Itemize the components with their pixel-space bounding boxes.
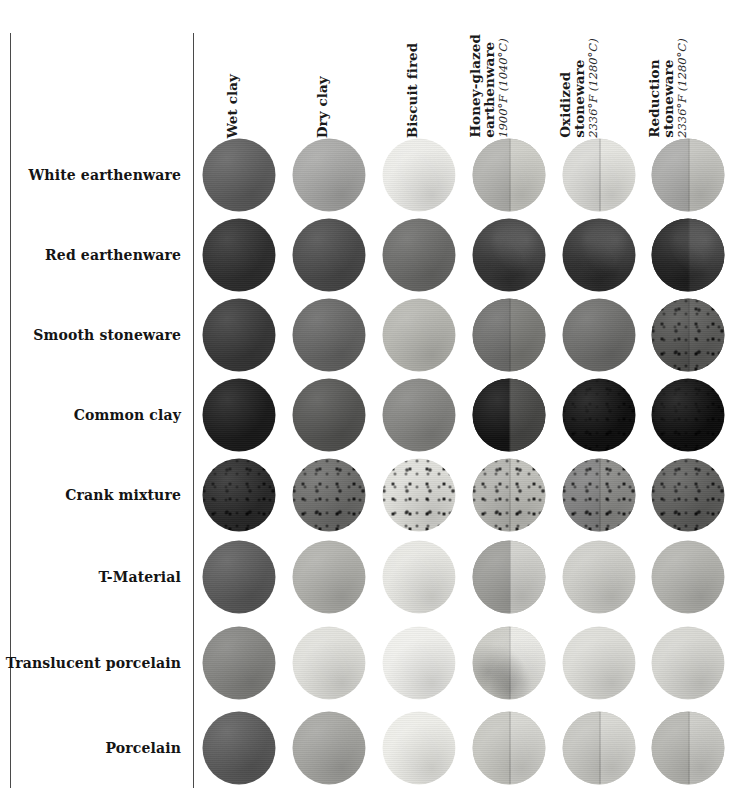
- sample-disc-red-earthenware-reduction-stoneware: [652, 219, 725, 292]
- vertical-rule-middle: [193, 33, 194, 788]
- sample-shading: [383, 379, 456, 452]
- sample-disc-porcelain-reduction-stoneware: [652, 712, 725, 785]
- row-label-t-material: T-Material: [0, 569, 181, 585]
- sample-disc-smooth-stoneware-dry-clay: [293, 299, 366, 372]
- row-label-translucent-porcelain: Translucent porcelain: [0, 655, 181, 671]
- column-header-temperature: 2336°F (1280°C): [676, 39, 688, 138]
- sample-disc-crank-mixture-wet-clay: [203, 459, 276, 532]
- sample-shading: [563, 139, 636, 212]
- sample-shading: [383, 139, 456, 212]
- sample-disc-red-earthenware-biscuit-fired: [383, 219, 456, 292]
- sample-shading: [563, 627, 636, 700]
- row-label-white-earthenware: White earthenware: [0, 167, 181, 183]
- row-label-common-clay: Common clay: [0, 407, 181, 423]
- sample-disc-porcelain-oxidized-stoneware: [563, 712, 636, 785]
- sample-disc-crank-mixture-biscuit-fired: [383, 459, 456, 532]
- sample-shading: [652, 541, 725, 614]
- column-header-temperature: 2336°F (1280°C): [587, 39, 599, 138]
- column-header-text: Oxidizedstoneware2336°F (1280°C): [558, 39, 599, 138]
- sample-disc-smooth-stoneware-reduction-stoneware: [652, 299, 725, 372]
- column-header-text: Honey-glazedearthenware1900°F (1040°C): [468, 34, 509, 138]
- sample-shading: [293, 299, 366, 372]
- sample-disc-smooth-stoneware-wet-clay: [203, 299, 276, 372]
- sample-shading: [473, 139, 546, 212]
- sample-disc-crank-mixture-oxidized-stoneware: [563, 459, 636, 532]
- sample-shading: [203, 712, 276, 785]
- row-label-crank-mixture: Crank mixture: [0, 487, 181, 503]
- column-header-text: Reductionstoneware2336°F (1280°C): [647, 39, 688, 138]
- column-header-text: Wet clay: [225, 74, 239, 138]
- row-label-red-earthenware: Red earthenware: [0, 247, 181, 263]
- sample-disc-t-material-wet-clay: [203, 541, 276, 614]
- sample-shading: [563, 459, 636, 532]
- sample-disc-red-earthenware-wet-clay: [203, 219, 276, 292]
- sample-disc-common-clay-oxidized-stoneware: [563, 379, 636, 452]
- column-header-title: Honey-glazedearthenware: [468, 34, 497, 138]
- column-header-text: Dry clay: [315, 76, 329, 138]
- sample-disc-porcelain-biscuit-fired: [383, 712, 456, 785]
- sample-shading: [563, 712, 636, 785]
- sample-disc-smooth-stoneware-honey-glazed-earthenware: [473, 299, 546, 372]
- sample-shading: [203, 139, 276, 212]
- sample-disc-common-clay-biscuit-fired: [383, 379, 456, 452]
- sample-disc-white-earthenware-biscuit-fired: [383, 139, 456, 212]
- sample-disc-smooth-stoneware-oxidized-stoneware: [563, 299, 636, 372]
- sample-shading: [383, 541, 456, 614]
- sample-shading: [473, 459, 546, 532]
- sample-shading: [293, 541, 366, 614]
- sample-disc-translucent-porcelain-oxidized-stoneware: [563, 627, 636, 700]
- sample-shading: [203, 219, 276, 292]
- sample-shading: [473, 299, 546, 372]
- sample-shading: [563, 299, 636, 372]
- sample-disc-porcelain-honey-glazed-earthenware: [473, 712, 546, 785]
- column-header-title: Wet clay: [225, 74, 239, 138]
- row-label-porcelain: Porcelain: [0, 740, 181, 756]
- sample-shading: [293, 219, 366, 292]
- sample-disc-common-clay-reduction-stoneware: [652, 379, 725, 452]
- sample-shading: [652, 627, 725, 700]
- sample-disc-common-clay-wet-clay: [203, 379, 276, 452]
- sample-shading: [293, 379, 366, 452]
- column-header-title: Dry clay: [315, 76, 329, 138]
- sample-shading: [203, 459, 276, 532]
- sample-shading: [383, 299, 456, 372]
- sample-disc-t-material-biscuit-fired: [383, 541, 456, 614]
- sample-disc-translucent-porcelain-honey-glazed-earthenware: [473, 627, 546, 700]
- sample-shading: [293, 139, 366, 212]
- sample-disc-crank-mixture-dry-clay: [293, 459, 366, 532]
- sample-shading: [473, 219, 546, 292]
- sample-shading: [293, 712, 366, 785]
- sample-disc-white-earthenware-wet-clay: [203, 139, 276, 212]
- sample-shading: [652, 459, 725, 532]
- sample-disc-smooth-stoneware-biscuit-fired: [383, 299, 456, 372]
- sample-disc-translucent-porcelain-reduction-stoneware: [652, 627, 725, 700]
- sample-shading: [473, 627, 546, 700]
- sample-disc-white-earthenware-honey-glazed-earthenware: [473, 139, 546, 212]
- sample-disc-red-earthenware-oxidized-stoneware: [563, 219, 636, 292]
- sample-shading: [563, 219, 636, 292]
- sample-shading: [652, 139, 725, 212]
- sample-disc-crank-mixture-reduction-stoneware: [652, 459, 725, 532]
- sample-shading: [652, 219, 725, 292]
- sample-shading: [383, 219, 456, 292]
- sample-shading: [203, 299, 276, 372]
- sample-disc-porcelain-dry-clay: [293, 712, 366, 785]
- sample-shading: [383, 459, 456, 532]
- sample-disc-white-earthenware-reduction-stoneware: [652, 139, 725, 212]
- sample-disc-common-clay-dry-clay: [293, 379, 366, 452]
- sample-shading: [652, 379, 725, 452]
- sample-disc-white-earthenware-oxidized-stoneware: [563, 139, 636, 212]
- sample-disc-t-material-reduction-stoneware: [652, 541, 725, 614]
- figure-sheet: Wet clayDry clayBiscuit firedHoney-glaze…: [0, 0, 733, 802]
- sample-disc-red-earthenware-dry-clay: [293, 219, 366, 292]
- sample-shading: [563, 379, 636, 452]
- sample-shading: [203, 541, 276, 614]
- sample-disc-porcelain-wet-clay: [203, 712, 276, 785]
- column-header-text: Biscuit fired: [405, 42, 419, 138]
- sample-disc-red-earthenware-honey-glazed-earthenware: [473, 219, 546, 292]
- sample-shading: [652, 299, 725, 372]
- column-header-title: Biscuit fired: [405, 42, 419, 138]
- column-header-temperature: 1900°F (1040°C): [497, 34, 509, 138]
- sample-shading: [293, 627, 366, 700]
- column-header-title: Oxidizedstoneware: [558, 39, 587, 138]
